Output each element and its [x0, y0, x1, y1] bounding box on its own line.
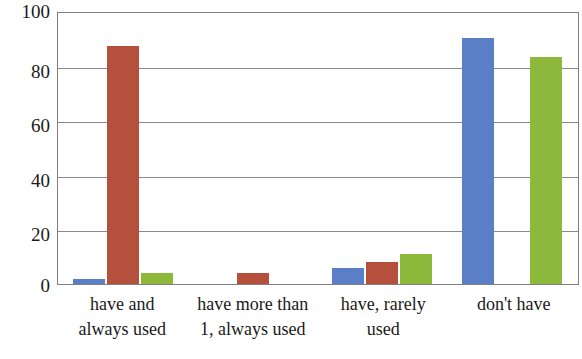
y-tick-label: 60 — [0, 116, 50, 135]
y-tick-label: 40 — [0, 171, 50, 190]
plot-area — [57, 12, 579, 285]
bar-chart: 100 80 60 40 20 0 have andalways usedhav… — [0, 0, 582, 359]
bar — [332, 268, 364, 284]
y-tick-label: 20 — [0, 225, 50, 244]
bar-group — [447, 13, 577, 284]
x-axis-label-line: don't have — [437, 292, 582, 317]
bar — [141, 273, 173, 284]
y-tick-label: 80 — [0, 62, 50, 81]
bar — [73, 279, 105, 284]
bar — [237, 273, 269, 284]
bar-group — [318, 13, 448, 284]
x-axis-label-line: used — [306, 317, 461, 342]
bars-layer — [58, 13, 578, 284]
x-axis-labels: have andalways usedhave more than1, alwa… — [57, 292, 579, 356]
y-tick-label: 100 — [0, 2, 50, 21]
bar — [400, 254, 432, 284]
y-axis: 100 80 60 40 20 0 — [0, 0, 50, 296]
bar — [366, 262, 398, 284]
bar — [462, 38, 494, 284]
bar-group — [188, 13, 318, 284]
bar — [107, 46, 139, 284]
bar — [530, 57, 562, 284]
x-axis-category-label: don't have — [437, 292, 582, 317]
y-tick-label: 0 — [0, 276, 50, 295]
bar-group — [58, 13, 188, 284]
